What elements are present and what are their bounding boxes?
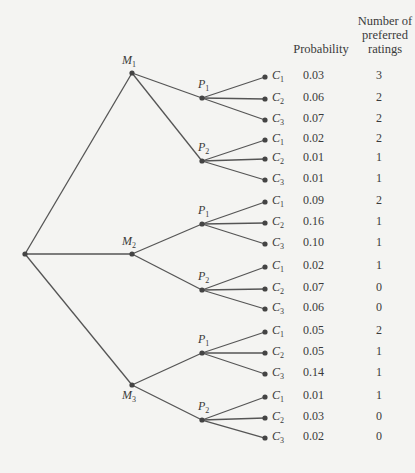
branch (202, 140, 265, 161)
node-m3-letter: M (122, 388, 132, 402)
leaf-subscript: 2 (280, 416, 284, 425)
leaf-node (262, 306, 267, 311)
leaf-node (262, 241, 267, 246)
root-node (22, 251, 27, 256)
leaf-label: C1 (272, 323, 284, 339)
branch (132, 254, 202, 290)
node-m2-p1: P1 (198, 203, 209, 219)
branch (132, 385, 202, 420)
leaf-letter: C (272, 280, 280, 294)
leaf-subscript: 3 (280, 436, 284, 445)
probability-value: 0.05 (303, 323, 324, 338)
node-m2-subscript: 2 (132, 241, 136, 250)
p-node (199, 287, 204, 292)
node-m1-p2-subscript: 2 (205, 147, 209, 156)
probability-value: 0.01 (303, 171, 324, 186)
leaf-subscript: 1 (280, 265, 284, 274)
node-m3-p2: P2 (198, 399, 209, 415)
leaf-letter: C (272, 131, 280, 145)
leaf-label: C3 (272, 300, 284, 316)
leaf-subscript: 2 (280, 287, 284, 296)
branch (202, 159, 265, 161)
leaf-subscript: 1 (280, 395, 284, 404)
branch (202, 290, 265, 309)
leaf-letter: C (272, 300, 280, 314)
node-m3-p1: P1 (198, 332, 209, 348)
leaf-node (262, 435, 267, 440)
node-m1-p2: P2 (198, 140, 209, 156)
leaf-subscript: 2 (280, 351, 284, 360)
node-m3: M3 (122, 388, 136, 404)
branch (132, 224, 202, 254)
leaf-letter: C (272, 214, 280, 228)
probability-value: 0.06 (303, 300, 324, 315)
node-m3-subscript: 3 (132, 395, 136, 404)
ratings-value: 1 (376, 150, 382, 165)
leaf-subscript: 3 (280, 178, 284, 187)
leaf-subscript: 3 (280, 372, 284, 381)
leaf-label: C1 (272, 258, 284, 274)
probability-value: 0.10 (303, 235, 324, 250)
leaf-subscript: 2 (280, 97, 284, 106)
branch (25, 254, 132, 385)
ratings-value: 2 (376, 323, 382, 338)
p-node (199, 417, 204, 422)
ratings-header-line3: ratings (355, 42, 415, 56)
ratings-value: 1 (376, 344, 382, 359)
probability-value: 0.01 (303, 388, 324, 403)
ratings-value: 2 (376, 193, 382, 208)
leaf-subscript: 3 (280, 307, 284, 316)
leaf-label: C3 (272, 235, 284, 251)
leaf-label: C2 (272, 344, 284, 360)
leaf-label: C3 (272, 429, 284, 445)
ratings-header-line1: Number of (355, 14, 415, 28)
leaf-letter: C (272, 258, 280, 272)
ratings-value: 0 (376, 429, 382, 444)
ratings-value: 2 (376, 131, 382, 146)
leaf-label: C2 (272, 214, 284, 230)
p-node (199, 95, 204, 100)
branch (202, 267, 265, 290)
probability-value: 0.06 (303, 90, 324, 105)
node-m2-p1-subscript: 1 (205, 210, 209, 219)
leaf-subscript: 3 (280, 242, 284, 251)
leaf-letter: C (272, 171, 280, 185)
probability-value: 0.16 (303, 214, 324, 229)
leaf-node (262, 286, 267, 291)
leaf-label: C3 (272, 365, 284, 381)
probability-value: 0.02 (303, 258, 324, 273)
leaf-subscript: 1 (280, 138, 284, 147)
probability-value: 0.01 (303, 150, 324, 165)
leaf-subscript: 3 (280, 118, 284, 127)
leaf-label: C3 (272, 111, 284, 127)
branch (132, 353, 202, 385)
p-node (199, 158, 204, 163)
branch (202, 418, 265, 420)
leaf-node (262, 74, 267, 79)
probability-value: 0.09 (303, 193, 324, 208)
branch (202, 202, 265, 224)
branch (202, 420, 265, 438)
leaf-letter: C (272, 388, 280, 402)
leaf-node (262, 137, 267, 142)
ratings-value: 1 (376, 214, 382, 229)
leaf-node (262, 177, 267, 182)
probability-value: 0.02 (303, 131, 324, 146)
ratings-value: 0 (376, 409, 382, 424)
p-node (199, 221, 204, 226)
ratings-value: 1 (376, 258, 382, 273)
leaf-subscript: 2 (280, 157, 284, 166)
probability-header: Probability (286, 42, 356, 56)
node-m3-p1-subscript: 1 (205, 339, 209, 348)
node-m1-subscript: 1 (132, 60, 136, 69)
leaf-node (262, 371, 267, 376)
leaf-node (262, 264, 267, 269)
probability-value: 0.03 (303, 68, 324, 83)
ratings-value: 0 (376, 280, 382, 295)
leaf-label: C2 (272, 409, 284, 425)
probability-value: 0.14 (303, 365, 324, 380)
leaf-node (262, 394, 267, 399)
probability-value: 0.05 (303, 344, 324, 359)
branch (202, 289, 265, 290)
leaf-node (262, 415, 267, 420)
